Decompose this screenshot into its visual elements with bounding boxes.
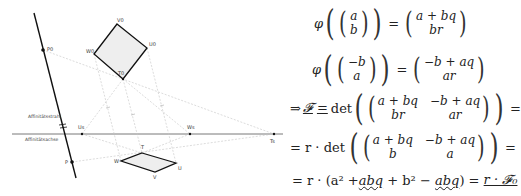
paren: ) [459, 9, 467, 37]
paren: ) [477, 133, 485, 161]
tick-marks [106, 105, 164, 115]
image-parallelogram [121, 153, 176, 172]
input-vector: −ba [348, 55, 366, 83]
equation-line-3: ⇒ 𝓕= det (( a + bq−b + aqbrar )) = [290, 91, 521, 125]
result-vector: −b + aqar [424, 55, 474, 83]
cancel-term-1: abq [359, 173, 383, 188]
paren: ( [337, 55, 345, 83]
math-derivation: φ (( ab )) = ( a + bqbr ) φ (( −ba )) = … [290, 0, 505, 196]
equation-line-5: = r · (a² + abq + b² − abq ) = r · 𝓕₀ [292, 172, 517, 188]
paren: ( [324, 52, 333, 86]
expansion-mid: + b² − [383, 173, 435, 188]
construction-lines [43, 48, 274, 163]
paren: ( [339, 9, 347, 37]
matrix: a + bq−b + aqbrar [378, 94, 480, 122]
paren: ) [361, 9, 369, 37]
label-T: T [140, 144, 145, 150]
label-Us: Us [78, 124, 85, 130]
phi-symbol: φ [312, 62, 321, 77]
paren: ) [373, 6, 382, 40]
label-W0: W0 [86, 48, 94, 54]
label-V0: V0 [117, 17, 124, 23]
label-U0: U0 [149, 41, 156, 47]
area-F-underlined: 𝓕= [303, 100, 328, 116]
equals: = [505, 140, 516, 155]
expansion-close: ) = [459, 173, 483, 188]
affine-map-diagram: P0 P V0 U0 W0 T0 T W U V Us Ws Ts Affini… [0, 0, 285, 196]
label-Ws: Ws [187, 124, 195, 130]
paren: ) [381, 52, 390, 86]
points [41, 48, 275, 164]
paren: ) [494, 91, 503, 125]
label-P0: P0 [47, 46, 53, 52]
cancel-term-2: abq [435, 173, 459, 188]
label-U: U [178, 165, 182, 171]
paren: ( [405, 9, 413, 37]
r-times-det: = r · det [290, 140, 345, 155]
equation-line-1: φ (( ab )) = ( a + bqbr ) [314, 6, 469, 40]
label-W: W [114, 158, 119, 164]
paren: ( [363, 133, 371, 161]
implies-symbol: ⇒ [290, 101, 301, 116]
equals: = [510, 101, 521, 116]
label-V: V [153, 174, 157, 180]
label-affinity-ray: Affinitätsstrahl [28, 114, 61, 119]
det-operator: det [331, 101, 352, 116]
paren: ) [489, 130, 498, 164]
input-vector: ab [350, 9, 358, 37]
matrix: a + bq−b + aqba [373, 133, 475, 161]
equals: = [396, 62, 407, 77]
affinity-ray [34, 13, 76, 178]
equation-line-4: = r · det (( a + bq−b + aqba )) = [290, 130, 516, 164]
final-result: r · 𝓕₀ [484, 172, 518, 188]
result-vector: a + bqbr [416, 9, 456, 37]
paren: ) [369, 55, 377, 83]
label-T0: T0 [117, 70, 124, 76]
phi-symbol: φ [314, 16, 323, 31]
label-affinity-axis: Affinitätsachse [25, 137, 59, 142]
paren: ( [349, 130, 358, 164]
expansion-lead: = r · (a² + [292, 173, 359, 188]
paren: ( [413, 55, 421, 83]
paren: ( [368, 94, 376, 122]
label-Ts: Ts [269, 138, 275, 144]
equals: = [388, 16, 399, 31]
paren: ( [326, 6, 335, 40]
equation-line-2: φ (( −ba )) = ( −b + aqar ) [312, 52, 487, 86]
label-P: P [65, 159, 68, 165]
paren: ) [477, 55, 485, 83]
paren: ) [482, 94, 490, 122]
paren: ( [355, 91, 364, 125]
